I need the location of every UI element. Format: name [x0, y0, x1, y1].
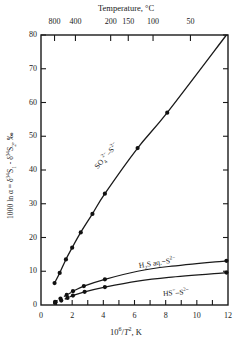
data-point-marker [103, 285, 107, 289]
data-point-marker [58, 271, 62, 275]
data-point-marker [65, 296, 69, 300]
chart-figure: Temperature, °C 1000 ln α = δ34S1 - δ34S… [0, 0, 252, 349]
top-tick-label: 800 [49, 18, 61, 26]
data-point-marker [53, 301, 57, 305]
data-point-marker [52, 281, 56, 285]
series-line [74, 273, 227, 296]
data-point-marker [71, 293, 75, 297]
y-axis-title: 1000 ln α = δ34S1 - δ34S2, ‰ [7, 101, 15, 251]
data-point-marker [79, 230, 83, 234]
plot-frame [41, 35, 228, 305]
data-point-marker [103, 192, 107, 196]
y-tick-label: 0 [21, 301, 37, 309]
y-tick-label: 40 [21, 166, 37, 174]
data-point-marker [165, 111, 169, 115]
data-point-marker [70, 246, 74, 250]
top-tick-label: 100 [147, 18, 159, 26]
data-point-marker [82, 284, 86, 288]
top-tick-label: 50 [186, 18, 194, 26]
y-tick-label: 50 [21, 132, 37, 140]
data-point-marker [224, 259, 228, 263]
x-axis-title: 106/T2, K [0, 328, 252, 337]
data-point-marker [83, 290, 87, 294]
y-tick-label: 20 [21, 234, 37, 242]
y-tick-label: 60 [21, 99, 37, 107]
series-line [55, 35, 227, 283]
x-tick-label: 10 [193, 312, 201, 320]
y-tick-label: 80 [21, 31, 37, 39]
top-tick-label: 200 [105, 18, 117, 26]
data-point-marker [224, 271, 228, 275]
data-point-marker [71, 289, 75, 293]
x-tick-label: 2 [70, 312, 74, 320]
data-point-marker [64, 257, 68, 261]
top-tick-label: 400 [69, 18, 81, 26]
x-tick-label: 0 [39, 312, 43, 320]
data-point-marker [59, 299, 63, 303]
data-point-marker [103, 277, 107, 281]
x-tick-label: 12 [224, 312, 232, 320]
plot-area [0, 0, 252, 349]
x-tick-label: 6 [133, 312, 137, 320]
x-tick-label: 8 [164, 312, 168, 320]
y-tick-label: 70 [21, 65, 37, 73]
data-point-marker [136, 146, 140, 150]
data-point-marker [90, 212, 94, 216]
top-tick-label: 150 [122, 18, 134, 26]
y-tick-label: 10 [21, 267, 37, 275]
x-tick-label: 4 [101, 312, 105, 320]
y-tick-label: 30 [21, 200, 37, 208]
